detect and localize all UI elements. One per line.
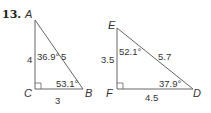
side-cb-label: 3 <box>55 95 60 106</box>
side-ed-label: 5.7 <box>158 51 171 62</box>
angle-a-label: 36.9° <box>37 51 59 62</box>
vertex-f-label: F <box>106 87 114 99</box>
right-angle-marker-f <box>117 83 123 89</box>
vertex-e-label: E <box>108 19 116 31</box>
vertex-a-label: A <box>24 8 32 20</box>
vertex-c-label: C <box>24 87 32 99</box>
triangle-edf: E F D 3.5 5.7 4.5 52.1° 37.9° <box>101 19 201 103</box>
side-ef-label: 3.5 <box>101 54 114 65</box>
right-angle-marker-c <box>35 83 41 89</box>
vertex-d-label: D <box>193 87 201 99</box>
triangle-abc: A C B 4 5 3 36.9° 53.1° <box>24 8 92 106</box>
side-ac-label: 4 <box>27 54 32 65</box>
angle-e-label: 52.1° <box>119 46 141 57</box>
side-fd-label: 4.5 <box>145 92 158 103</box>
vertex-b-label: B <box>85 87 92 99</box>
side-ab-label: 5 <box>61 51 66 62</box>
angle-d-label: 37.9° <box>159 78 181 89</box>
triangles-diagram: A C B 4 5 3 36.9° 53.1° E F D 3.5 5.7 4.… <box>0 0 211 113</box>
angle-b-label: 53.1° <box>56 78 78 89</box>
